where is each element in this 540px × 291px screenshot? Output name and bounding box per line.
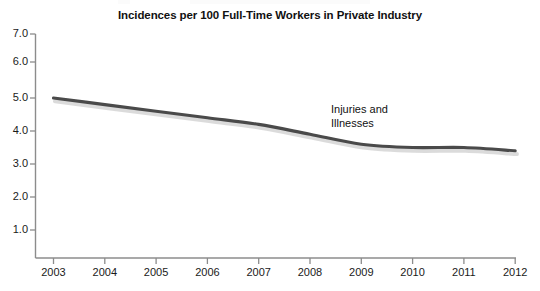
x-tick-label-2008: 2008 — [287, 266, 333, 278]
x-tick-label-2012: 2012 — [492, 266, 538, 278]
y-tick-label-6: 6.0 — [0, 55, 28, 67]
y-tick-label-4: 4.0 — [0, 124, 28, 136]
x-tick-label-2003: 2003 — [31, 266, 77, 278]
y-axis-ticks — [30, 34, 36, 230]
x-tick-label-2011: 2011 — [441, 266, 487, 278]
x-tick-label-2004: 2004 — [82, 266, 128, 278]
x-tick-label-2005: 2005 — [133, 266, 179, 278]
x-axis-ticks — [54, 258, 516, 264]
series-annotation-label: Injuries and Illnesses — [331, 103, 388, 130]
y-tick-label-7: 7.0 — [0, 27, 28, 39]
series-line-injuries-and-illnesses — [54, 98, 516, 151]
x-tick-label-2006: 2006 — [184, 266, 230, 278]
y-tick-label-2: 2.0 — [0, 190, 28, 202]
plot-area — [0, 0, 540, 291]
chart-container: Incidences per 100 Full-Time Workers in … — [0, 0, 540, 291]
x-tick-label-2007: 2007 — [236, 266, 282, 278]
x-tick-label-2010: 2010 — [390, 266, 436, 278]
y-tick-label-3: 3.0 — [0, 157, 28, 169]
y-tick-label-5: 5.0 — [0, 91, 28, 103]
x-tick-label-2009: 2009 — [338, 266, 384, 278]
y-tick-label-1: 1.0 — [0, 223, 28, 235]
